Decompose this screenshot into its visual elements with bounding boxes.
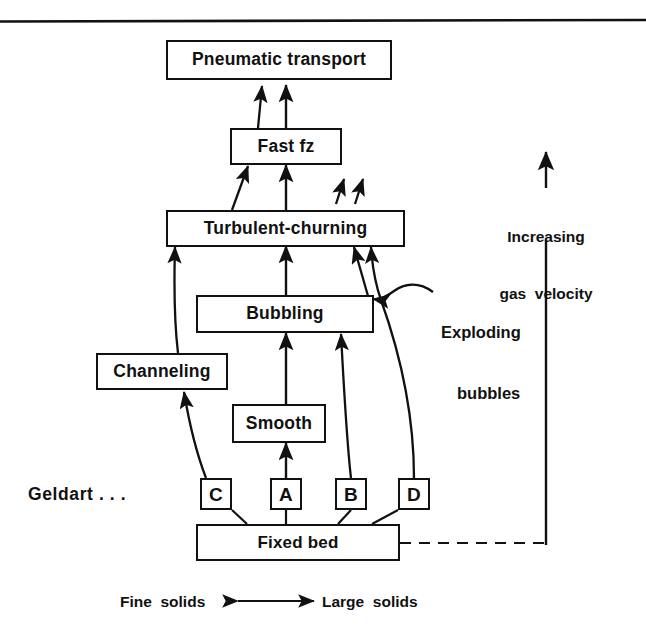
axis-label-fine-solids: Fine solids [120,593,205,612]
node-channeling[interactable]: Channeling [96,353,228,390]
geldart-class-label: D [407,485,421,504]
gas-velocity-line-1: Increasing [480,228,612,247]
edge-c-to-channeling [184,392,206,478]
geldart-class-label: C [209,485,223,504]
node-label: Fixed bed [257,534,338,551]
top-horizontal-rule [0,20,646,22]
exploding-bubbles-annotation: Exploding bubbles [441,282,591,443]
edge-turbulent-to-fastfz-left [232,166,248,210]
node-label: Pneumatic transport [192,51,366,69]
fluidization-regime-diagram: Pneumatic transport Fast fz Turbulent-ch… [0,0,646,633]
node-pneumatic-transport[interactable]: Pneumatic transport [166,40,392,80]
node-smooth[interactable]: Smooth [232,404,326,443]
edge-d-to-turbulent [371,247,414,478]
edge-channeling-to-turbulent [174,247,178,353]
node-label: Turbulent-churning [204,220,368,238]
geldart-class-label: A [279,485,293,504]
edge-fastfz-to-pneumatic-left [258,86,262,128]
exploding-bubbles-line-1: Exploding [441,322,591,342]
geldart-class-label: B [344,485,358,504]
node-turbulent-churning[interactable]: Turbulent-churning [166,210,405,247]
node-bubbling[interactable]: Bubbling [196,295,374,333]
axis-label-large-solids: Large solids [322,593,418,612]
node-fixed-bed[interactable]: Fixed bed [196,524,400,561]
node-fast-fz[interactable]: Fast fz [230,128,342,165]
edge-bubbling-right-to-turbulent [354,247,368,296]
geldart-class-c[interactable]: C [200,478,232,510]
node-label: Fast fz [258,138,315,156]
exploding-bubbles-line-2: bubbles [441,383,591,403]
geldart-prefix-label: Geldart . . . [28,484,126,505]
exploding-bubbles-leader [373,285,433,299]
geldart-class-b[interactable]: B [335,478,367,510]
node-label: Bubbling [246,305,323,323]
fixedbed-to-class-connectors [232,510,398,524]
node-label: Channeling [113,363,210,381]
geldart-class-d[interactable]: D [398,478,430,510]
node-label: Smooth [246,415,312,433]
edge-b-to-bubbling [341,334,351,478]
edge-turbulent-topright-arrows [336,179,363,204]
geldart-class-a[interactable]: A [270,478,302,510]
